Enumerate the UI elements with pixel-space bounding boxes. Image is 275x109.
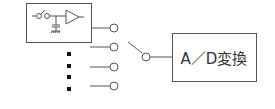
switch-icon bbox=[32, 10, 66, 19]
terminal-1-icon bbox=[110, 24, 118, 32]
amplifier-icon bbox=[66, 10, 84, 24]
selector-switch-icon bbox=[128, 42, 172, 61]
terminal-2-icon bbox=[110, 43, 118, 51]
diagram-canvas: A／D変換 bbox=[0, 0, 275, 109]
terminal-3-icon bbox=[110, 63, 118, 71]
ad-converter-label: A／D変換 bbox=[172, 33, 256, 81]
ellipsis-dots-icon bbox=[67, 52, 71, 91]
input-circuit-box bbox=[27, 4, 92, 43]
capacitor-ground-icon bbox=[51, 16, 60, 33]
terminal-4-icon bbox=[110, 82, 118, 90]
